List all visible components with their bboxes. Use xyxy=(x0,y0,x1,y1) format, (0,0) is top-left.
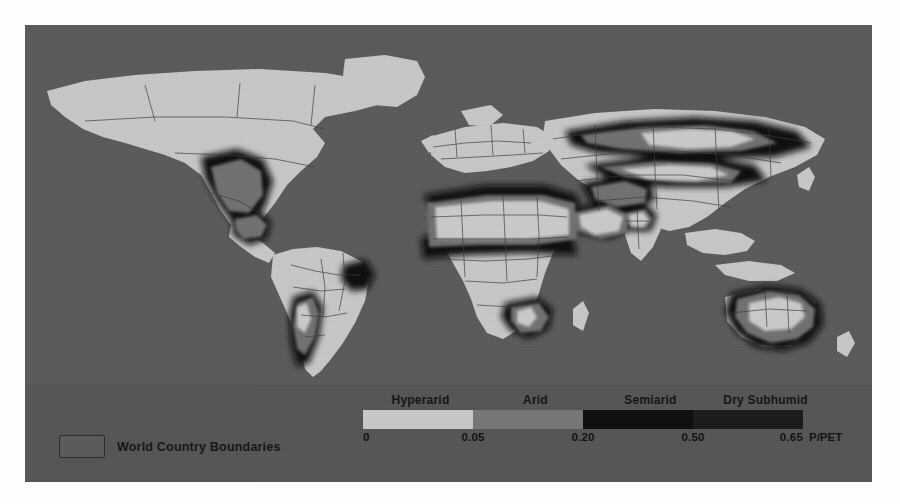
colorbar-band-arid xyxy=(473,410,583,429)
colorbar-tick-0: 0 xyxy=(363,431,370,443)
colorbar-band-hyperarid xyxy=(363,410,473,429)
boundary-legend-label: World Country Boundaries xyxy=(117,440,281,454)
figure-page: World Country Boundaries HyperaridAridSe… xyxy=(0,0,900,504)
colorbar-class-label-1: Arid xyxy=(523,393,548,407)
map-legend: World Country Boundaries HyperaridAridSe… xyxy=(25,385,872,482)
aridity-colorbar: HyperaridAridSemiaridDry Subhumid P/PET … xyxy=(363,393,823,447)
colorbar-tick-labels: P/PET 00.050.200.500.65 xyxy=(363,431,823,447)
colorbar-bands xyxy=(363,410,803,429)
colorbar-tick-3: 0.50 xyxy=(681,431,704,443)
colorbar-band-dry-subhumid xyxy=(693,410,803,429)
boundary-legend-key: World Country Boundaries xyxy=(59,435,281,458)
boundary-swatch xyxy=(59,435,105,458)
colorbar-class-label-3: Dry Subhumid xyxy=(723,393,807,407)
colorbar-class-label-0: Hyperarid xyxy=(392,393,450,407)
colorbar-band-semiarid xyxy=(583,410,693,429)
colorbar-unit-label: P/PET xyxy=(809,431,842,443)
colorbar-class-label-2: Semiarid xyxy=(624,393,676,407)
colorbar-class-labels: HyperaridAridSemiaridDry Subhumid xyxy=(363,393,823,410)
colorbar-tick-4: 0.65 xyxy=(780,431,803,443)
colorbar-tick-1: 0.05 xyxy=(461,431,484,443)
colorbar-tick-2: 0.20 xyxy=(571,431,594,443)
figure-panel: World Country Boundaries HyperaridAridSe… xyxy=(25,25,872,482)
world-aridity-map xyxy=(25,25,872,385)
map-graphic xyxy=(25,25,872,385)
